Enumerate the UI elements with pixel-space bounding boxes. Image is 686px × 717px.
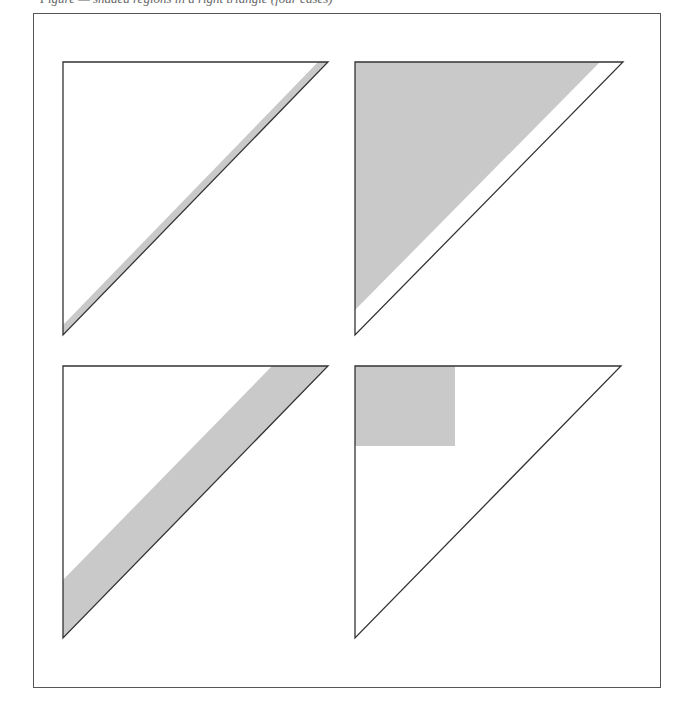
triangle-outline (63, 366, 328, 638)
triangle-outline (63, 62, 328, 335)
diagram-canvas (0, 0, 686, 717)
shaded-inner-triangle (355, 62, 600, 310)
panel-bottom-right (355, 366, 621, 638)
panel-top-right (355, 62, 623, 335)
shaded-square (355, 366, 455, 446)
panel-top-left (63, 62, 328, 335)
panel-bottom-left (63, 366, 328, 638)
